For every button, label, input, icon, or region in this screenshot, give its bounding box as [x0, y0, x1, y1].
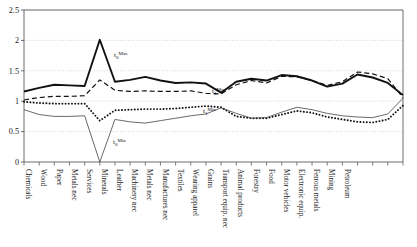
x-axis-label: Chemicals: [24, 169, 32, 200]
ann-t0min-text: t0Min: [113, 138, 126, 148]
x-axis-label: Manufactures nec: [161, 169, 169, 220]
y-tick-label: 1.5: [9, 67, 19, 76]
ann-t0max: t0Max: [114, 51, 128, 61]
x-axis-category-labels: ChemicalsWoodPaperMetals necServicesMine…: [24, 169, 350, 228]
y-tick-label: 2.5: [9, 6, 19, 15]
x-axis-label: Metals nec: [145, 169, 153, 200]
x-axis-label: Motor vehicles: [282, 169, 290, 213]
x-axis-label: Petroleum: [343, 169, 351, 199]
y-tick-label: 2: [15, 36, 19, 45]
y-tick-label: 0: [15, 158, 19, 167]
x-axis-label: Ferrous metals: [312, 169, 320, 212]
y-axis-tick-labels: 00.511.522.5: [9, 6, 24, 167]
ann-t0max-text: t0Max: [114, 51, 128, 61]
ann-t1min-text: t1Min: [203, 107, 216, 117]
x-axis-label: Electronic equip.: [297, 169, 305, 218]
x-axis-label: Paper: [55, 169, 63, 186]
grid-lines: [24, 10, 403, 132]
ann-t0min: t0Min: [113, 138, 126, 148]
y-tick-label: 1: [15, 97, 19, 106]
x-axis-label: Leather: [115, 169, 123, 192]
x-axis-label: Metals nec: [70, 169, 78, 200]
x-axis-label: Textiles: [176, 169, 184, 192]
y-tick-label: 0.5: [9, 127, 19, 136]
data-series: [24, 40, 403, 162]
x-axis-label: Transport equip. nec: [221, 169, 229, 228]
x-axis-label: Services: [85, 169, 93, 194]
x-axis-label: Minerals: [100, 169, 108, 195]
series-line-t1Min: [24, 102, 403, 123]
x-axis-label: Machinery nec: [130, 169, 138, 212]
x-axis-tick-marks: [24, 162, 403, 166]
x-axis-label: Wearing apparel: [191, 169, 199, 216]
x-axis-label: Animal products: [236, 169, 244, 217]
x-axis-label: Grains: [206, 169, 214, 188]
x-axis-label: Wood: [39, 169, 47, 186]
x-axis-label: Food: [267, 169, 275, 184]
x-axis-label: Mining: [327, 169, 335, 191]
x-axis-label: Forestry: [252, 169, 260, 193]
chart-container: 00.511.522.5 ChemicalsWoodPaperMetals ne…: [0, 0, 417, 247]
ann-t1min: t1Min: [203, 107, 216, 117]
line-chart: 00.511.522.5 ChemicalsWoodPaperMetals ne…: [0, 0, 417, 247]
series-annotations: t0Maxt0Mint1Maxt1Min: [113, 51, 226, 148]
